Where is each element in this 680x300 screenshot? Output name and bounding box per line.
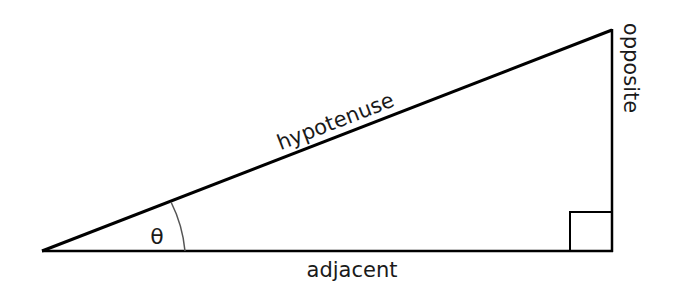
right-angle-marker [570, 212, 612, 251]
hypotenuse-line [42, 30, 612, 251]
opposite-label: opposite [619, 23, 643, 113]
angle-arc [171, 202, 185, 251]
adjacent-label: adjacent [307, 258, 398, 282]
angle-label: θ [150, 224, 163, 249]
right-triangle-diagram: θ hypotenuse adjacent opposite [0, 0, 680, 300]
